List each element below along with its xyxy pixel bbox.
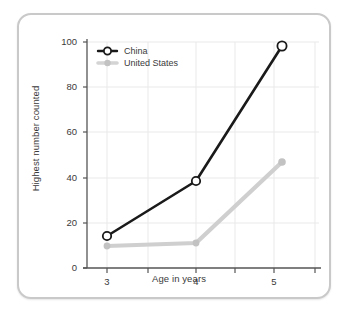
us-point-age-3 xyxy=(104,243,111,250)
series-china xyxy=(103,41,287,240)
china-point-age-3 xyxy=(103,232,111,240)
vertical-gridlines xyxy=(107,42,315,268)
horizontal-gridlines xyxy=(87,42,319,223)
y-tick-label-60: 60 xyxy=(47,126,77,137)
y-tick-label-80: 80 xyxy=(47,81,77,92)
legend-label-united-states: United States xyxy=(124,58,178,68)
legend-marker-china xyxy=(98,47,117,54)
china-point-age-4 xyxy=(192,177,200,185)
us-point-age-4 xyxy=(193,240,200,247)
legend-label-china: China xyxy=(124,46,148,56)
chart-frame: 100 80 60 40 20 0 3 4 5 Highest number c… xyxy=(17,13,331,299)
x-axis-title: Age in years xyxy=(79,273,279,284)
us-line xyxy=(107,162,282,246)
y-axis-title: Highest number counted xyxy=(30,69,41,209)
y-tick-label-40: 40 xyxy=(47,172,77,183)
legend-marker-united-states xyxy=(98,60,117,66)
china-point-age-5 xyxy=(277,41,286,50)
y-tick-label-0: 0 xyxy=(47,262,77,273)
series-united-states xyxy=(104,158,286,249)
us-point-age-5 xyxy=(278,158,286,166)
y-tick-label-100: 100 xyxy=(47,36,77,47)
china-line xyxy=(107,46,282,236)
y-tick-label-20: 20 xyxy=(47,217,77,228)
